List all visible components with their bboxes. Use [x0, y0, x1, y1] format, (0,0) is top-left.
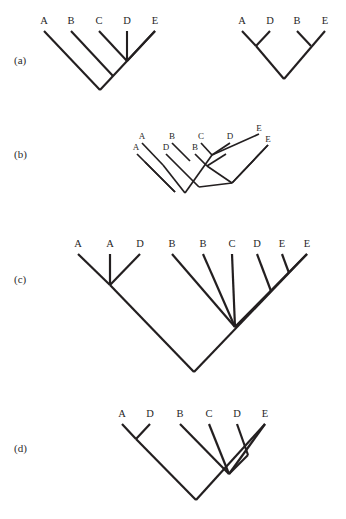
panel-label-d: (d) [14, 442, 27, 455]
leaf-label: E [256, 123, 262, 133]
leaf-label: D [253, 238, 261, 249]
leaf-label: B [168, 238, 175, 249]
leaf-label: B [293, 15, 300, 26]
leaf-label: B [199, 238, 206, 249]
leaf-label: B [67, 15, 74, 26]
leaf-label: D [123, 15, 131, 26]
panel-label-c: (c) [14, 273, 27, 286]
leaf-label: A [118, 408, 126, 419]
leaf-label: B [192, 142, 198, 152]
leaf-label: D [163, 142, 170, 152]
leaf-label: E [322, 15, 328, 26]
leaf-label: A [40, 15, 48, 26]
panel-label-b: (b) [14, 148, 27, 161]
leaf-label: E [265, 134, 271, 144]
leaf-label: B [169, 131, 175, 141]
leaf-label: C [205, 408, 212, 419]
leaf-label: E [279, 238, 285, 249]
leaf-label: B [176, 408, 183, 419]
leaf-label: A [133, 142, 140, 152]
leaf-label: A [106, 238, 114, 249]
leaf-label: C [228, 238, 235, 249]
cladogram-figure: (a)ABCDEADBE(b)ABCDEADBE(c)AADBBCDEE(d)A… [0, 0, 346, 519]
panel-label-a: (a) [14, 54, 27, 67]
leaf-label: D [233, 408, 241, 419]
leaf-label: C [198, 131, 204, 141]
leaf-label: A [238, 15, 246, 26]
leaf-label: C [95, 15, 102, 26]
leaf-label: D [146, 408, 154, 419]
leaf-label: E [304, 238, 310, 249]
leaf-label: A [74, 238, 82, 249]
leaf-label: D [266, 15, 274, 26]
leaf-label: D [136, 238, 144, 249]
figure-background [0, 0, 346, 519]
leaf-label: E [152, 15, 158, 26]
leaf-label: E [262, 408, 268, 419]
figure-container: (a)ABCDEADBE(b)ABCDEADBE(c)AADBBCDEE(d)A… [0, 0, 346, 519]
leaf-label: D [227, 131, 234, 141]
leaf-label: A [139, 131, 146, 141]
